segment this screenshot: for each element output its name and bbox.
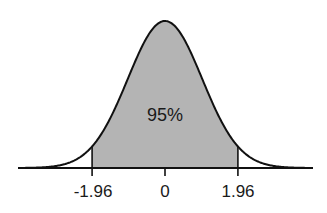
shaded-area-95-percent (92, 21, 238, 168)
area-percent-label: 95% (147, 105, 183, 125)
tick-label-center: 0 (160, 182, 169, 201)
tick-label-right: 1.96 (221, 182, 254, 201)
normal-distribution-chart: 95% -1.96 0 1.96 (0, 0, 327, 213)
tick-label-left: -1.96 (74, 182, 113, 201)
